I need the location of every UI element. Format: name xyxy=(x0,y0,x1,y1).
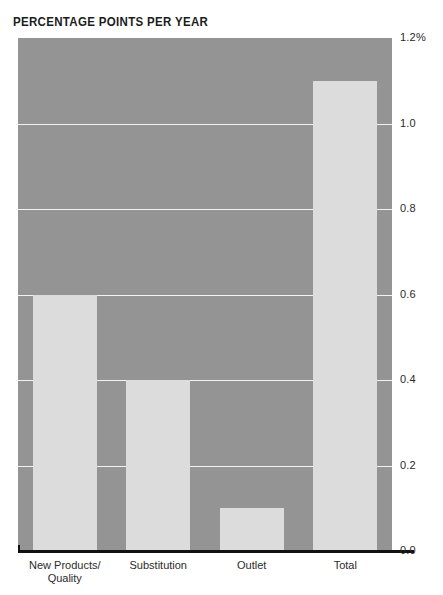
bars-group xyxy=(18,38,392,551)
plot-area xyxy=(18,38,392,551)
y-axis-tick-label: 0.2 xyxy=(400,459,416,471)
y-axis-tick-label: 1.0 xyxy=(400,117,416,129)
y-axis-tick-label: 1.2% xyxy=(400,31,426,43)
clipped-header-text xyxy=(0,0,443,9)
x-axis-line xyxy=(18,550,414,553)
x-axis-category-label: Outlet xyxy=(205,559,299,572)
chart-title: PERCENTAGE POINTS PER YEAR xyxy=(13,15,208,29)
bar xyxy=(33,295,97,552)
x-axis-category-label: Total xyxy=(299,559,393,572)
y-axis-origin-tick xyxy=(18,545,20,553)
chart-figure: PERCENTAGE POINTS PER YEAR 1.2%1.00.80.6… xyxy=(0,0,443,595)
x-axis-category-label: New Products/ Quality xyxy=(18,559,112,585)
y-axis-tick-label: 0.8 xyxy=(400,202,416,214)
y-axis-tick-label: 0.6 xyxy=(400,288,416,300)
bar xyxy=(126,380,190,551)
bar xyxy=(313,81,377,551)
y-axis-tick-label: 0.4 xyxy=(400,373,416,385)
bar xyxy=(220,508,284,551)
x-axis-category-label: Substitution xyxy=(112,559,206,572)
y-axis-tick-label: 0.0 xyxy=(400,544,416,556)
